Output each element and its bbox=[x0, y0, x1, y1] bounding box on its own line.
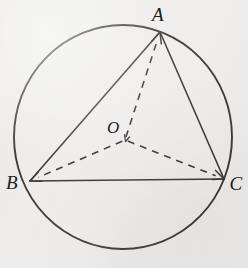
vertex-label-b: B bbox=[6, 173, 18, 192]
triangle-side-bc bbox=[30, 179, 224, 181]
vertex-label-c: C bbox=[230, 174, 243, 193]
arrowhead-b-icon bbox=[30, 172, 42, 181]
geometry-figure: A B C O bbox=[0, 0, 248, 268]
vector-oc bbox=[128, 141, 216, 176]
center-label-o: O bbox=[107, 118, 119, 137]
vertex-label-a: A bbox=[152, 5, 164, 24]
circumcircle bbox=[14, 25, 232, 249]
geometry-canvas bbox=[0, 0, 248, 268]
vector-oa bbox=[126, 41, 157, 138]
vector-ob bbox=[38, 141, 122, 177]
arrowhead-a-icon bbox=[152, 32, 161, 44]
